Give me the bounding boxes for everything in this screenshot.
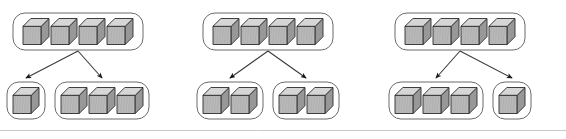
panel-middle	[197, 13, 339, 119]
cube	[489, 19, 515, 45]
cube	[461, 19, 487, 45]
cube	[117, 88, 143, 114]
cube	[231, 88, 257, 114]
child-group-left-box[interactable]	[389, 82, 483, 119]
panel-left	[7, 13, 149, 119]
parent-group-box[interactable]	[395, 13, 525, 50]
cube	[23, 19, 49, 45]
arrow-to-right-child	[460, 51, 512, 78]
cube	[499, 88, 525, 114]
panel-right	[389, 13, 531, 119]
cube	[13, 88, 39, 114]
cube	[395, 88, 421, 114]
child-group-left-box[interactable]	[7, 82, 45, 119]
parent-group-box[interactable]	[203, 13, 333, 50]
cube	[79, 19, 105, 45]
cube	[213, 19, 239, 45]
cube	[89, 88, 115, 114]
arrow-to-right-child	[78, 51, 102, 78]
child-group-right-box[interactable]	[493, 82, 531, 119]
cube	[51, 19, 77, 45]
arrow-to-right-child	[268, 51, 306, 78]
cube	[451, 88, 477, 114]
divide-diagram	[0, 0, 566, 139]
cube	[279, 88, 305, 114]
child-group-left-box[interactable]	[197, 82, 263, 119]
arrow-to-left-child	[436, 51, 460, 78]
cube	[203, 88, 229, 114]
cube	[307, 88, 333, 114]
cube	[433, 19, 459, 45]
child-group-right-box[interactable]	[273, 82, 339, 119]
cube	[61, 88, 87, 114]
child-group-right-box[interactable]	[55, 82, 149, 119]
cube	[423, 88, 449, 114]
cube	[297, 19, 323, 45]
cube	[405, 19, 431, 45]
cube	[241, 19, 267, 45]
arrow-to-left-child	[26, 51, 78, 78]
cube	[107, 19, 133, 45]
arrow-to-left-child	[230, 51, 268, 78]
cube	[269, 19, 295, 45]
parent-group-box[interactable]	[13, 13, 143, 50]
diagram-canvas	[0, 0, 566, 139]
